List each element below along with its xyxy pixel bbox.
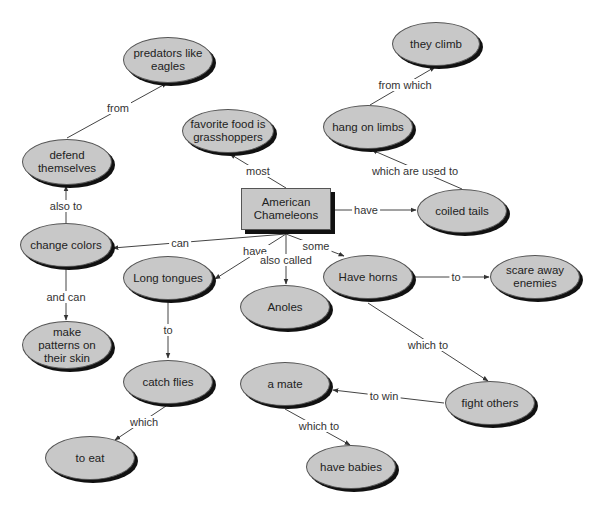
node-label: fight others <box>462 397 519 410</box>
node-label: favorite food is grasshoppers <box>191 118 266 144</box>
concept-node-flies[interactable]: catch flies <box>123 360 213 404</box>
node-label: change colors <box>30 239 102 252</box>
concept-node-horns[interactable]: Have horns <box>323 255 413 299</box>
root-concept-node[interactable]: American Chameleons <box>241 188 331 230</box>
node-label: hang on limbs <box>332 121 404 134</box>
node-label: make patterns on their skin <box>38 326 96 365</box>
link-label: also to <box>48 200 84 212</box>
node-label: to eat <box>76 452 105 465</box>
link-label: have <box>352 204 380 216</box>
link-label: can <box>169 237 191 249</box>
node-label: defend themselves <box>38 149 96 175</box>
node-label: catch flies <box>142 376 193 389</box>
node-label: scare away enemies <box>506 264 564 290</box>
concept-node-eat[interactable]: to eat <box>45 436 135 480</box>
link-label: to win <box>368 390 401 402</box>
concept-node-food[interactable]: favorite food is grasshoppers <box>182 109 274 153</box>
concept-node-defend[interactable]: defend themselves <box>22 139 112 185</box>
link-label: and can <box>44 291 87 303</box>
link-label: which to <box>297 420 341 432</box>
concept-node-anoles[interactable]: Anoles <box>240 285 330 329</box>
node-label: they climb <box>410 38 462 51</box>
node-label: Have horns <box>339 271 398 284</box>
concept-node-scare[interactable]: scare away enemies <box>490 255 580 299</box>
concept-node-predators[interactable]: predators like eagles <box>123 37 213 83</box>
link-label: which are used to <box>370 165 460 177</box>
link-label: from <box>105 102 131 114</box>
link-label: to <box>161 324 174 336</box>
concept-node-patterns[interactable]: make patterns on their skin <box>22 321 112 369</box>
node-label: Long tongues <box>133 272 203 285</box>
link-label: to <box>449 271 462 283</box>
node-label: coiled tails <box>435 205 489 218</box>
link-label: some <box>301 240 332 252</box>
link-label: most <box>244 165 272 177</box>
concept-node-climb[interactable]: they climb <box>392 22 480 66</box>
concept-node-colors[interactable]: change colors <box>20 223 112 267</box>
concept-node-limbs[interactable]: hang on limbs <box>323 105 413 149</box>
link-label: which to <box>406 339 450 351</box>
concept-node-fight[interactable]: fight others <box>445 381 535 425</box>
link-label: which <box>128 416 160 428</box>
node-label: Anoles <box>267 301 302 314</box>
concept-map-canvas: mosthavewhich are used tofrom whichcanha… <box>0 0 601 510</box>
link-label: from which <box>376 79 433 91</box>
node-label: have babies <box>320 461 382 474</box>
concept-node-babies[interactable]: have babies <box>306 445 396 489</box>
concept-node-tongues[interactable]: Long tongues <box>123 256 213 300</box>
node-label: a mate <box>267 378 302 391</box>
link-label: also called <box>258 254 314 266</box>
node-label: predators like eagles <box>133 47 202 73</box>
node-label: American Chameleons <box>254 196 319 222</box>
concept-node-tails[interactable]: coiled tails <box>417 189 507 233</box>
concept-node-mate[interactable]: a mate <box>240 362 330 406</box>
